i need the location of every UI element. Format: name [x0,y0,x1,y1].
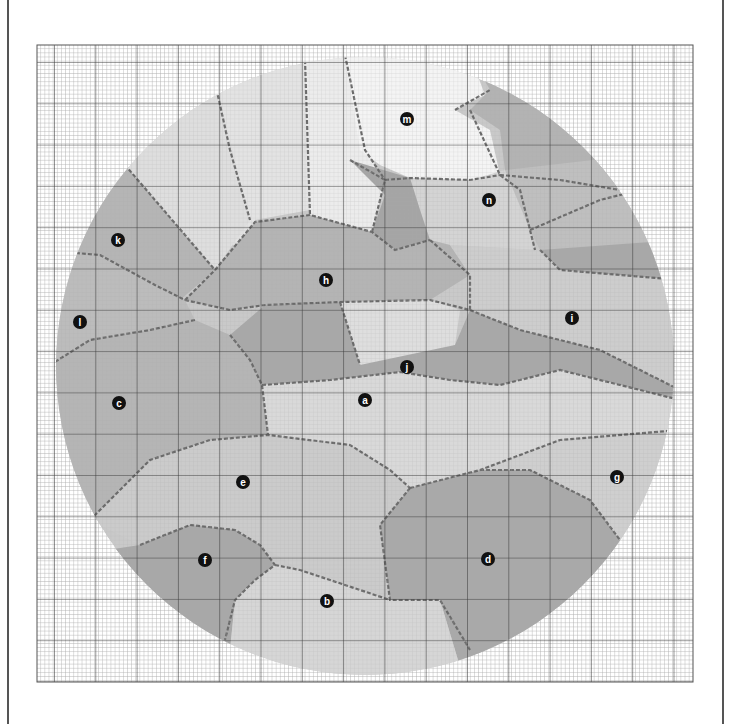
svg-text:d: d [485,554,491,565]
svg-text:i: i [571,313,574,324]
label-d: d [481,552,495,566]
label-c: c [112,396,126,410]
svg-text:k: k [115,235,121,246]
label-f: f [198,553,212,567]
label-n: n [482,193,496,207]
label-h: h [319,273,333,287]
label-m: m [400,112,414,126]
svg-text:h: h [323,275,329,286]
svg-text:b: b [324,596,330,607]
label-b: b [320,594,334,608]
label-j: j [400,360,414,374]
svg-text:m: m [403,114,412,125]
grain-map-figure: a b c d e f g h i j k l m n [0,0,731,724]
label-e: e [236,475,250,489]
grid-overlay [37,45,693,682]
svg-text:n: n [486,195,492,206]
svg-text:a: a [362,395,368,406]
label-k: k [111,233,125,247]
svg-text:j: j [405,362,409,373]
svg-text:l: l [79,317,82,328]
svg-text:e: e [240,477,246,488]
label-i: i [565,311,579,325]
svg-text:c: c [116,398,122,409]
label-l: l [73,315,87,329]
label-a: a [358,393,372,407]
label-g: g [610,470,624,484]
svg-text:g: g [614,472,620,483]
